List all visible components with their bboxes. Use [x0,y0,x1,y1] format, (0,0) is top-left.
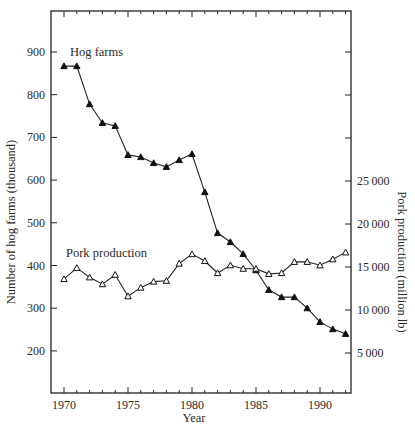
left-y-axis-title: Number of hog farms (thousand) [4,140,18,305]
right-y-tick-label: 25 000 [357,174,389,188]
open-triangle-marker [330,256,336,262]
x-tick-label: 1990 [308,398,332,412]
open-triangle-marker [138,284,144,290]
open-triangle-marker [342,249,348,255]
open-triangle-marker [112,272,118,278]
filled-triangle-marker [176,157,182,163]
left-y-tick-label: 900 [27,45,45,59]
x-axis-title: Year [182,411,206,425]
left-y-axis-ticks: 200300400500600700800900 [27,45,57,358]
left-y-tick-label: 200 [27,344,45,358]
open-triangle-marker [125,293,131,299]
left-y-tick-label: 300 [27,301,45,315]
right-y-tick-label: 20 000 [357,217,389,231]
x-axis-ticks: 19701975198019851990 [52,11,346,412]
x-tick-label: 1970 [52,398,76,412]
filled-triangle-marker [214,230,220,236]
x-tick-label: 1985 [244,398,268,412]
open-triangle-marker [74,265,80,271]
dual-axis-line-chart: 19701975198019851990 2003004005006007008… [0,0,415,429]
left-y-tick-label: 600 [27,173,45,187]
left-y-tick-label: 400 [27,259,45,273]
open-triangle-marker [189,251,195,257]
right-y-tick-label: 15 000 [357,260,389,274]
left-y-tick-label: 500 [27,216,45,230]
left-y-tick-label: 800 [27,88,45,102]
right-y-tick-label: 5 000 [357,346,383,360]
hog-farms-label: Hog farms [70,45,123,59]
right-y-axis-title: Pork production (million lb) [395,191,409,332]
pork-production-label: Pork production [66,246,148,260]
filled-triangle-marker [150,160,156,166]
x-tick-label: 1980 [180,398,204,412]
left-y-tick-label: 700 [27,130,45,144]
plot-frame [51,11,351,393]
filled-triangle-marker [330,326,336,332]
filled-triangle-marker [189,151,195,157]
right-y-tick-label: 10 000 [357,303,389,317]
hog-farms-series [61,63,349,336]
x-tick-label: 1975 [116,398,140,412]
filled-triangle-marker [202,189,208,195]
filled-triangle-marker [227,239,233,245]
filled-triangle-marker [125,152,131,158]
right-y-axis-ticks: 5 00010 00015 00020 00025 000 [345,52,389,360]
open-triangle-marker [227,262,233,268]
open-triangle-marker [202,258,208,264]
filled-triangle-marker [266,287,272,293]
filled-triangle-marker [86,101,92,107]
